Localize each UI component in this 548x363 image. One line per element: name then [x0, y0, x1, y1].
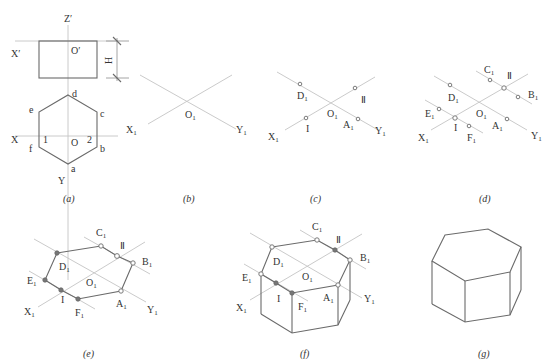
caption-a: (a) [63, 193, 75, 205]
label-d1: D1 [273, 256, 284, 269]
vertex-e: e [29, 104, 34, 115]
point-f1 [467, 124, 471, 128]
point-i [59, 288, 63, 292]
point-i [304, 116, 308, 120]
caption-f: (f) [300, 348, 310, 360]
vertex-a: a [71, 163, 76, 174]
label-o1: O1 [86, 277, 97, 290]
label-a1: A1 [116, 298, 127, 311]
label-y1: Y1 [531, 130, 542, 143]
panel-d: C1 Ⅱ B1 D1 E1 O1 I A1 F1 X1 Y1 (d) [418, 64, 542, 205]
label-o-prime: O′ [71, 45, 80, 56]
point-d1 [55, 251, 59, 255]
label-ii: Ⅱ [120, 240, 125, 251]
label-b1: B1 [142, 256, 153, 269]
point-ii [333, 248, 337, 252]
label-y1: Y1 [147, 304, 158, 317]
axis-o-y1 [250, 233, 362, 298]
point-i [274, 281, 278, 285]
point-ii [353, 86, 357, 90]
label-a1: A1 [323, 292, 334, 305]
prism-top-face [432, 229, 521, 281]
label-f1: F1 [298, 301, 308, 314]
label-x1: X1 [418, 132, 429, 145]
point-a1 [356, 117, 360, 121]
label-d1: D1 [448, 92, 459, 105]
point-d1 [270, 245, 274, 249]
prism-bottom-edges [432, 290, 521, 322]
label-a1: A1 [343, 119, 354, 132]
label-f1: F1 [467, 132, 477, 145]
point-a1 [336, 283, 340, 287]
axis-o-y1 [140, 75, 236, 129]
point-b1 [516, 95, 520, 99]
label-c1: C1 [484, 64, 495, 77]
label-d1: D1 [59, 261, 70, 274]
point-b1 [348, 258, 352, 262]
caption-d: (d) [479, 193, 491, 205]
label-ii: Ⅱ [336, 234, 341, 245]
point-d1 [448, 83, 452, 87]
label-x1: X1 [268, 131, 279, 144]
label-y1: Y1 [236, 124, 247, 137]
point-ii [115, 254, 120, 259]
label-i: I [454, 122, 457, 133]
caption-g: (g) [478, 348, 490, 360]
isometric-hexagonal-prism-construction-diagram: Z′ X′ O′ H X d c e f b a 1 2 O Y (a) O1 … [0, 0, 548, 363]
point-i [453, 116, 457, 120]
point-c1 [99, 244, 103, 248]
vertex-b: b [100, 143, 105, 154]
point-e1 [43, 278, 47, 282]
label-c1: C1 [312, 221, 323, 234]
point-c1 [315, 238, 319, 242]
caption-e: (e) [83, 348, 95, 360]
panel-e: C1 Ⅱ B1 D1 E1 O1 I A1 F1 X1 Y1 (e) [24, 227, 158, 360]
label-o1: O1 [185, 109, 196, 122]
label-e1: E1 [27, 275, 37, 288]
label-o1: O1 [476, 108, 487, 121]
label-o1: O1 [302, 271, 313, 284]
label-x1: X1 [126, 124, 137, 137]
label-x1: X1 [24, 306, 35, 319]
point-2: 2 [87, 134, 92, 145]
label-o1: O1 [327, 108, 338, 121]
label-a1: A1 [492, 120, 503, 133]
label-e1: E1 [242, 272, 252, 285]
label-f1: F1 [75, 307, 85, 320]
label-x-prime: X′ [11, 48, 20, 59]
vertex-f: f [29, 143, 33, 154]
point-c1 [488, 78, 492, 82]
panel-a: Z′ X′ O′ H X d c e f b a 1 2 O Y (a) [11, 13, 129, 280]
label-y1: Y1 [375, 125, 386, 138]
label-i: I [61, 294, 64, 305]
label-x: X [11, 134, 19, 145]
panel-g: (g) [432, 229, 521, 360]
label-z-prime: Z′ [64, 13, 72, 24]
caption-c: (c) [310, 193, 322, 205]
point-a1 [119, 289, 123, 293]
point-1: 1 [43, 134, 48, 145]
axis-x1-o [38, 242, 145, 307]
caption-b: (b) [183, 193, 195, 205]
panel-f: C1 Ⅱ B1 D1 E1 O1 I A1 F1 X1 Y1 (f) [236, 221, 375, 360]
label-i: I [306, 123, 309, 134]
label-ii: Ⅱ [361, 94, 366, 105]
point-f1 [76, 297, 80, 301]
label-y1: Y1 [364, 293, 375, 306]
label-c1: C1 [96, 227, 107, 240]
label-b1: B1 [360, 252, 371, 265]
label-d1: D1 [297, 90, 308, 103]
point-f1 [290, 291, 294, 295]
panel-c: D1 Ⅱ O1 I A1 X1 Y1 (c) [268, 72, 386, 205]
point-e1 [259, 272, 263, 276]
point-b1 [131, 261, 135, 265]
bottom-edges [261, 300, 350, 333]
point-e1 [437, 107, 441, 111]
label-e1: E1 [425, 108, 435, 121]
point-a1 [505, 117, 509, 121]
vertex-c: c [100, 108, 105, 119]
label-ii: Ⅱ [507, 70, 512, 81]
label-h: H [103, 57, 114, 64]
label-b1: B1 [528, 89, 539, 102]
point-ii [502, 86, 506, 90]
